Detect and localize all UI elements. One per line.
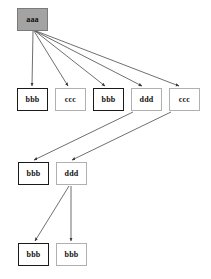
graph-node-n2[interactable]: ccc	[55, 88, 86, 111]
graph-node-n1[interactable]: bbb	[17, 88, 48, 111]
graph-node-label: ddd	[140, 96, 154, 104]
graph-node-n3[interactable]: bbb	[93, 88, 124, 111]
graph-node-label: ccc	[179, 96, 190, 104]
graph-node-label: bbb	[102, 96, 116, 104]
graph-node-n0[interactable]: aaa	[17, 8, 48, 31]
edge-layer	[0, 0, 211, 279]
graph-node-label: bbb	[27, 170, 41, 178]
graph-node-label: ddd	[65, 170, 79, 178]
graph-node-n7[interactable]: ddd	[56, 162, 87, 185]
graph-node-n5[interactable]: ccc	[169, 88, 200, 111]
graph-node-n8[interactable]: bbb	[18, 243, 49, 266]
graph-node-label: aaa	[26, 16, 39, 24]
graph-node-label: bbb	[27, 251, 41, 259]
graph-node-label: bbb	[26, 96, 40, 104]
graph-edge-n0-to-n2	[34, 31, 68, 86]
graph-node-label: ccc	[65, 96, 76, 104]
graph-edge-n0-to-n4	[35, 31, 142, 86]
graph-node-n4[interactable]: ddd	[131, 88, 162, 111]
graph-edge-n0-to-n1	[32, 31, 33, 86]
graph-edge-n5-to-n7	[72, 112, 171, 160]
graph-node-n9[interactable]: bbb	[56, 243, 87, 266]
graph-node-n6[interactable]: bbb	[18, 162, 49, 185]
graph-node-label: bbb	[65, 251, 79, 259]
graph-edge-n7-to-n8	[35, 186, 69, 241]
graph-edge-n0-to-n3	[35, 31, 105, 86]
edges-group	[32, 31, 179, 241]
graph-edge-n0-to-n5	[36, 31, 179, 86]
graph-edge-n4-to-n6	[34, 112, 133, 160]
graph-diagram: aaabbbcccbbbdddcccbbbdddbbbbbb	[0, 0, 211, 279]
